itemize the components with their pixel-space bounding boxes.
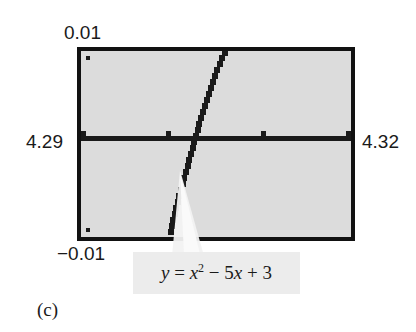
callout-pointer	[170, 170, 250, 258]
figure-panel: 0.01 −0.01 4.29 4.32	[0, 0, 416, 332]
x-axis-tick-marks	[166, 131, 266, 136]
y-axis-max-label: 0.01	[64, 22, 101, 44]
figure-caption: (c)	[37, 299, 58, 321]
x-axis-min-label: 4.29	[26, 131, 63, 153]
x-axis-line	[81, 136, 351, 141]
x-axis-max-label: 4.32	[362, 131, 399, 153]
equation-callout: y = x2 − 5x + 3	[133, 252, 300, 294]
equation-label: y = x2 − 5x + 3	[161, 261, 272, 284]
x-axis-end-ticks	[81, 131, 351, 136]
y-axis-min-label: −0.01	[57, 243, 105, 265]
